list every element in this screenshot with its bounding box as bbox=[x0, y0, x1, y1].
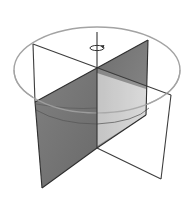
cylinder-planes-diagram bbox=[0, 0, 193, 214]
diagram-canvas: Cylinder with two perpendicular intersec… bbox=[0, 0, 193, 214]
